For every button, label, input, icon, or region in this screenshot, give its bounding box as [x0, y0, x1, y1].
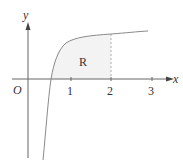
x-tick-label-3: 3 — [148, 84, 154, 98]
origin-label: O — [13, 83, 22, 97]
y-axis-label: y — [22, 8, 29, 22]
region-label: R — [79, 55, 87, 69]
x-axis-label: x — [172, 72, 179, 86]
y-axis-arrow-icon — [26, 22, 31, 30]
x-tick-label-1: 1 — [67, 84, 73, 98]
x-tick-label-2: 2 — [107, 84, 113, 98]
graph-figure: y x O 1 2 3 R — [0, 0, 183, 160]
